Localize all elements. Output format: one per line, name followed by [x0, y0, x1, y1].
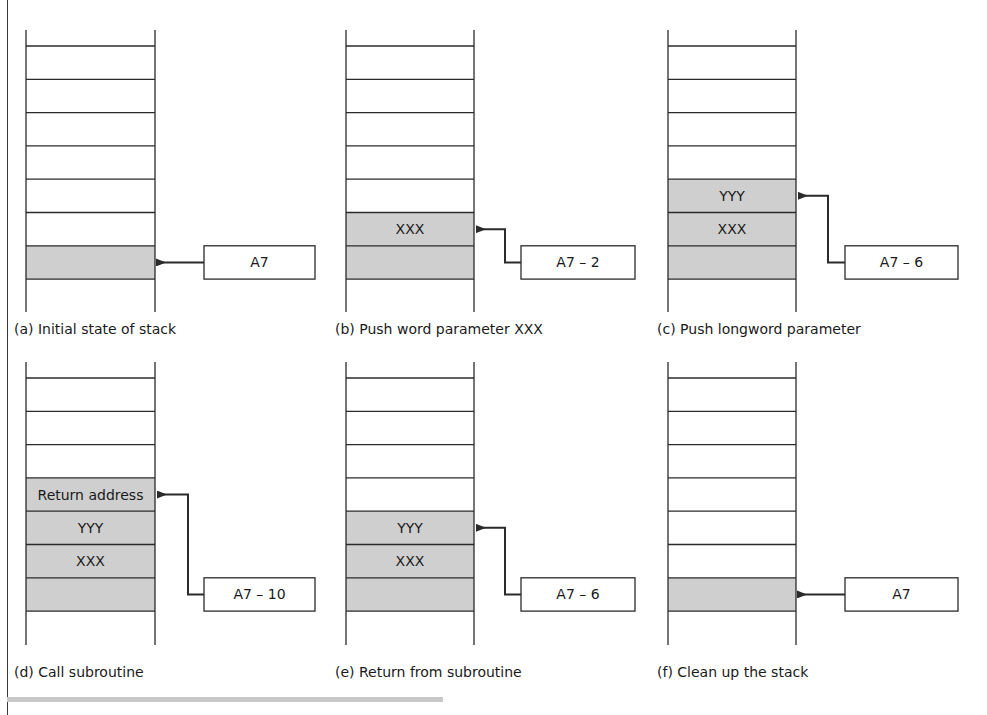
stack-cell-label: YYY: [718, 188, 745, 204]
stack-pointer-arrow: [158, 495, 204, 595]
pointer-register-label: A7: [892, 586, 910, 602]
stack-cell-shaded: [668, 246, 796, 279]
panel-a-caption: (a) Initial state of stack: [14, 321, 176, 337]
pointer-register-label: A7 – 6: [556, 586, 599, 602]
panel-b: XXXA7 – 2: [346, 30, 635, 312]
stack-pointer-arrow: [799, 196, 845, 263]
stack-pointer-arrow: [477, 229, 521, 262]
panel-f: A7: [668, 362, 958, 645]
pointer-register-label: A7 – 6: [880, 254, 923, 270]
pointer-register-label: A7 – 2: [556, 254, 599, 270]
stack-cell-shaded: [668, 578, 796, 611]
stack-diagram-svg: A7XXXA7 – 2XXXYYYA7 – 6XXXYYYReturn addr…: [0, 0, 987, 715]
stack-cell-shaded: [346, 246, 474, 279]
stack-cell-shaded: [346, 578, 474, 611]
stack-cell-shaded: [26, 578, 155, 611]
panel-a: A7: [26, 30, 315, 312]
stack-cell-label: XXX: [396, 553, 425, 569]
pointer-register-label: A7: [250, 254, 268, 270]
stack-cell-label: XXX: [76, 553, 105, 569]
stack-cell-shaded: [26, 246, 155, 279]
panel-e: XXXYYYA7 – 6: [346, 362, 635, 645]
stack-cell-label: Return address: [38, 487, 144, 503]
pointer-register-label: A7 – 10: [233, 586, 285, 602]
stack-cell-label: YYY: [77, 520, 104, 536]
panel-b-caption: (b) Push word parameter XXX: [335, 321, 543, 337]
stack-cell-label: XXX: [396, 221, 425, 237]
panel-f-caption: (f) Clean up the stack: [657, 664, 808, 680]
stack-diagram-figure: A7XXXA7 – 2XXXYYYA7 – 6XXXYYYReturn addr…: [0, 0, 987, 715]
panel-d-caption: (d) Call subroutine: [14, 664, 144, 680]
panel-d: XXXYYYReturn addressA7 – 10: [26, 362, 315, 645]
stack-pointer-arrow: [477, 528, 521, 595]
panel-c: XXXYYYA7 – 6: [668, 30, 958, 312]
panel-c-caption: (c) Push longword parameter: [657, 321, 861, 337]
panel-e-caption: (e) Return from subroutine: [335, 664, 522, 680]
stack-cell-label: XXX: [718, 221, 747, 237]
stack-cell-label: YYY: [396, 520, 423, 536]
